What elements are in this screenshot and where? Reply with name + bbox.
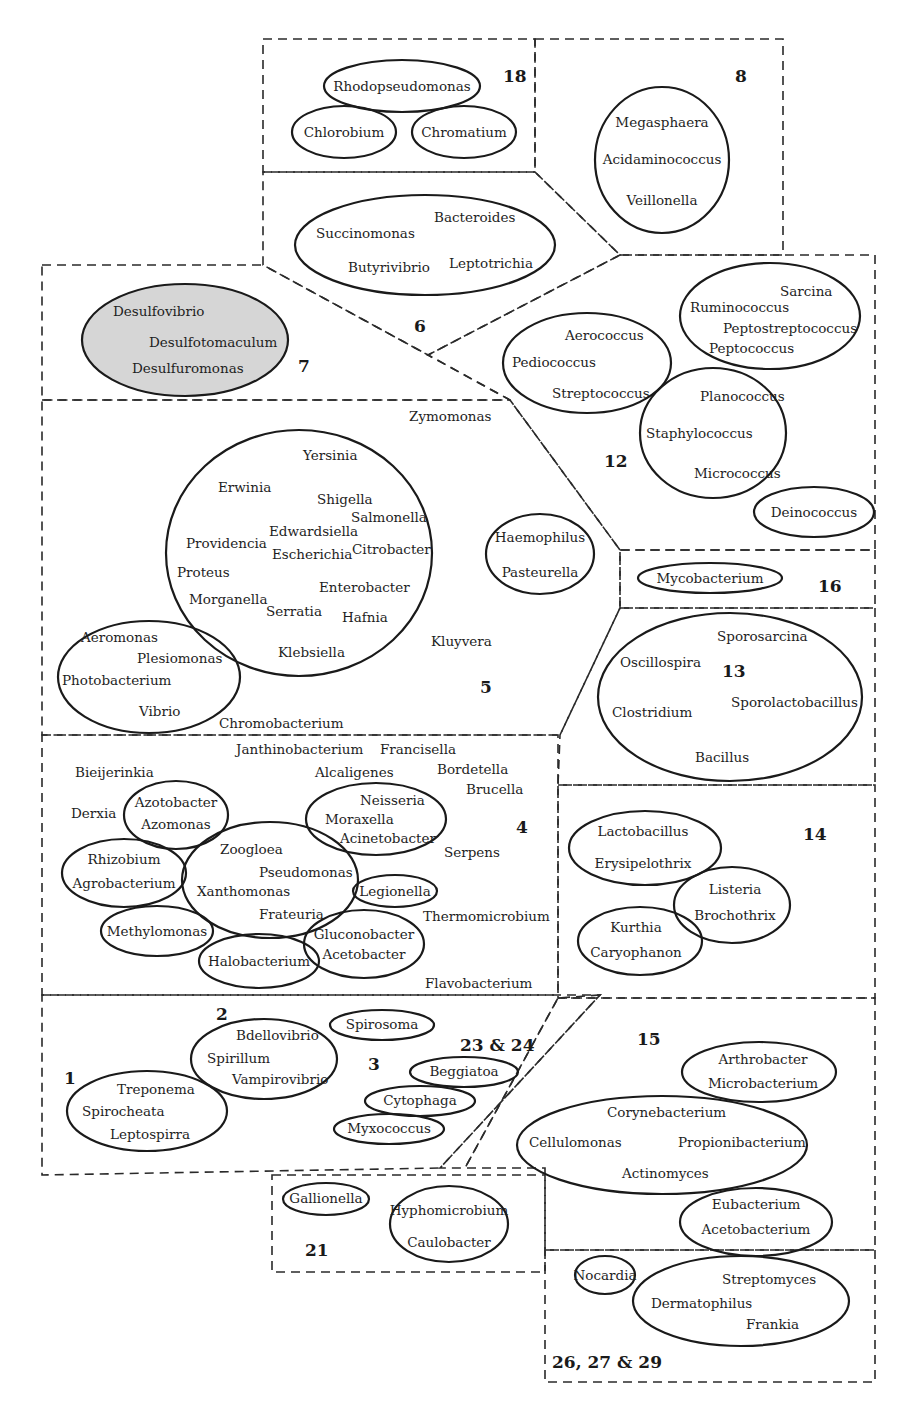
genus-label: Klebsiella — [278, 644, 345, 660]
genus-label: Treponema — [117, 1081, 195, 1097]
genus-label: Listeria — [709, 881, 761, 897]
genus-label: Hafnia — [342, 609, 388, 625]
genus-label: Citrobacter — [352, 541, 431, 557]
genus-label: Aeromonas — [80, 629, 158, 645]
genus-label: Caulobacter — [407, 1234, 491, 1250]
bacterial-groups-diagram: RhodopseudomonasChlorobiumChromatiumMega… — [0, 0, 912, 1412]
genus-label: Gallionella — [289, 1190, 362, 1206]
genus-label: Salmonella — [351, 509, 427, 525]
genus-label: Aerococcus — [564, 327, 644, 343]
genus-label: Pasteurella — [502, 564, 579, 580]
genus-label: Thermomicrobium — [423, 908, 550, 924]
genus-label: Desulfuromonas — [132, 360, 244, 376]
genus-label: Veillonella — [626, 192, 698, 208]
ellipse-rhizobium — [62, 839, 186, 907]
genus-label: Peptococcus — [709, 340, 794, 356]
genus-label: Flavobacterium — [425, 975, 533, 991]
genus-label: Caryophanon — [590, 944, 682, 960]
group-number-label: 4 — [516, 817, 528, 837]
genus-label: Bacteroides — [434, 209, 515, 225]
genus-label: Brucella — [466, 781, 523, 797]
genus-label: Acinetobacter — [339, 830, 437, 846]
genus-label: Chlorobium — [304, 124, 385, 140]
genus-label: Erysipelothrix — [595, 855, 692, 871]
genus-label: Mycobacterium — [656, 570, 763, 586]
genus-label: Microbacterium — [708, 1075, 818, 1091]
genus-label: Proteus — [177, 564, 230, 580]
genus-label: Vibrio — [138, 703, 180, 719]
genus-label: Oscillospira — [620, 654, 701, 670]
group-number-label: 3 — [368, 1054, 380, 1074]
genus-label: Butyrivibrio — [348, 259, 430, 275]
genus-label: Serpens — [444, 844, 500, 860]
genus-label: Bieijerinkia — [75, 764, 154, 780]
group-number-label: 2 — [216, 1004, 228, 1024]
genus-label: Planococcus — [700, 388, 785, 404]
genus-label: Erwinia — [218, 479, 271, 495]
group-number-label: 13 — [722, 661, 746, 681]
genus-label: Azomonas — [140, 816, 211, 832]
genus-label: Derxia — [71, 805, 116, 821]
group-number-label: 6 — [414, 316, 426, 336]
genus-label: Lactobacillus — [598, 823, 689, 839]
group-number-label: 26, 27 & 29 — [552, 1352, 662, 1372]
genus-label: Kurthia — [610, 919, 661, 935]
genus-label: Shigella — [317, 491, 373, 507]
genus-label: Corynebacterium — [607, 1104, 726, 1120]
genus-label: Ruminococcus — [690, 299, 789, 315]
genus-label: Chromobacterium — [219, 715, 344, 731]
ellipse-hyphomicrobium — [390, 1186, 508, 1262]
genus-label: Arthrobacter — [717, 1051, 808, 1067]
genus-label: Frankia — [746, 1316, 799, 1332]
genus-label: Alcaligenes — [314, 764, 394, 780]
genus-label: Yersinia — [302, 447, 358, 463]
genus-label: Chromatium — [421, 124, 507, 140]
genus-label: Dermatophilus — [651, 1295, 752, 1311]
genus-label: Brochothrix — [694, 907, 776, 923]
group-number-label: 12 — [604, 451, 628, 471]
group-number-label: 1 — [64, 1068, 76, 1088]
ellipse-kurthia — [578, 907, 702, 975]
genus-label: Deinococcus — [771, 504, 857, 520]
genus-label: Pediococcus — [512, 354, 596, 370]
genus-label: Streptomyces — [722, 1271, 816, 1287]
genus-label: Enterobacter — [319, 579, 410, 595]
genus-label: Halobacterium — [208, 953, 310, 969]
genus-label: Morganella — [189, 591, 267, 607]
genus-label: Methylomonas — [107, 923, 208, 939]
genus-label: Rhizobium — [88, 851, 161, 867]
genus-label: Acetobacterium — [701, 1221, 811, 1237]
genus-label: Neisseria — [360, 792, 425, 808]
genus-label: Zoogloea — [220, 841, 283, 857]
genus-label: Eubacterium — [712, 1196, 801, 1212]
genus-label: Serratia — [266, 603, 322, 619]
genus-label: Bdellovibrio — [236, 1027, 319, 1043]
genus-label: Sporolactobacillus — [731, 694, 858, 710]
genus-label: Desulfovibrio — [113, 303, 204, 319]
genus-label: Rhodopseudomonas — [333, 78, 470, 94]
group-number-label: 8 — [735, 66, 747, 86]
genus-label: Leptospirra — [110, 1126, 190, 1142]
ellipse-haemophilus — [486, 514, 594, 594]
genus-label: Acidaminococcus — [602, 151, 722, 167]
genus-label: Leptotrichia — [449, 255, 533, 271]
genus-label: Janthinobacterium — [234, 741, 364, 757]
group-number-label: 21 — [305, 1240, 329, 1260]
genus-label: Xanthomonas — [197, 883, 290, 899]
genus-label: Streptococcus — [552, 385, 650, 401]
genus-label: Edwardsiella — [269, 523, 358, 539]
genus-label: Azotobacter — [134, 794, 218, 810]
genus-label: Providencia — [186, 535, 267, 551]
genus-label: Myxococcus — [347, 1120, 431, 1136]
genus-label: Zymomonas — [409, 408, 492, 424]
genus-label: Succinomonas — [316, 225, 415, 241]
genus-label: Megasphaera — [615, 114, 708, 130]
genus-label: Moraxella — [325, 811, 394, 827]
group-number-label: 14 — [803, 824, 827, 844]
genus-label: Spirocheata — [82, 1103, 165, 1119]
genus-label: Haemophilus — [495, 529, 585, 545]
genus-label: Spirosoma — [346, 1016, 419, 1032]
genus-label: Cellulomonas — [529, 1134, 622, 1150]
genus-label: Kluyvera — [431, 633, 492, 649]
ellipse-group-6 — [295, 195, 555, 295]
